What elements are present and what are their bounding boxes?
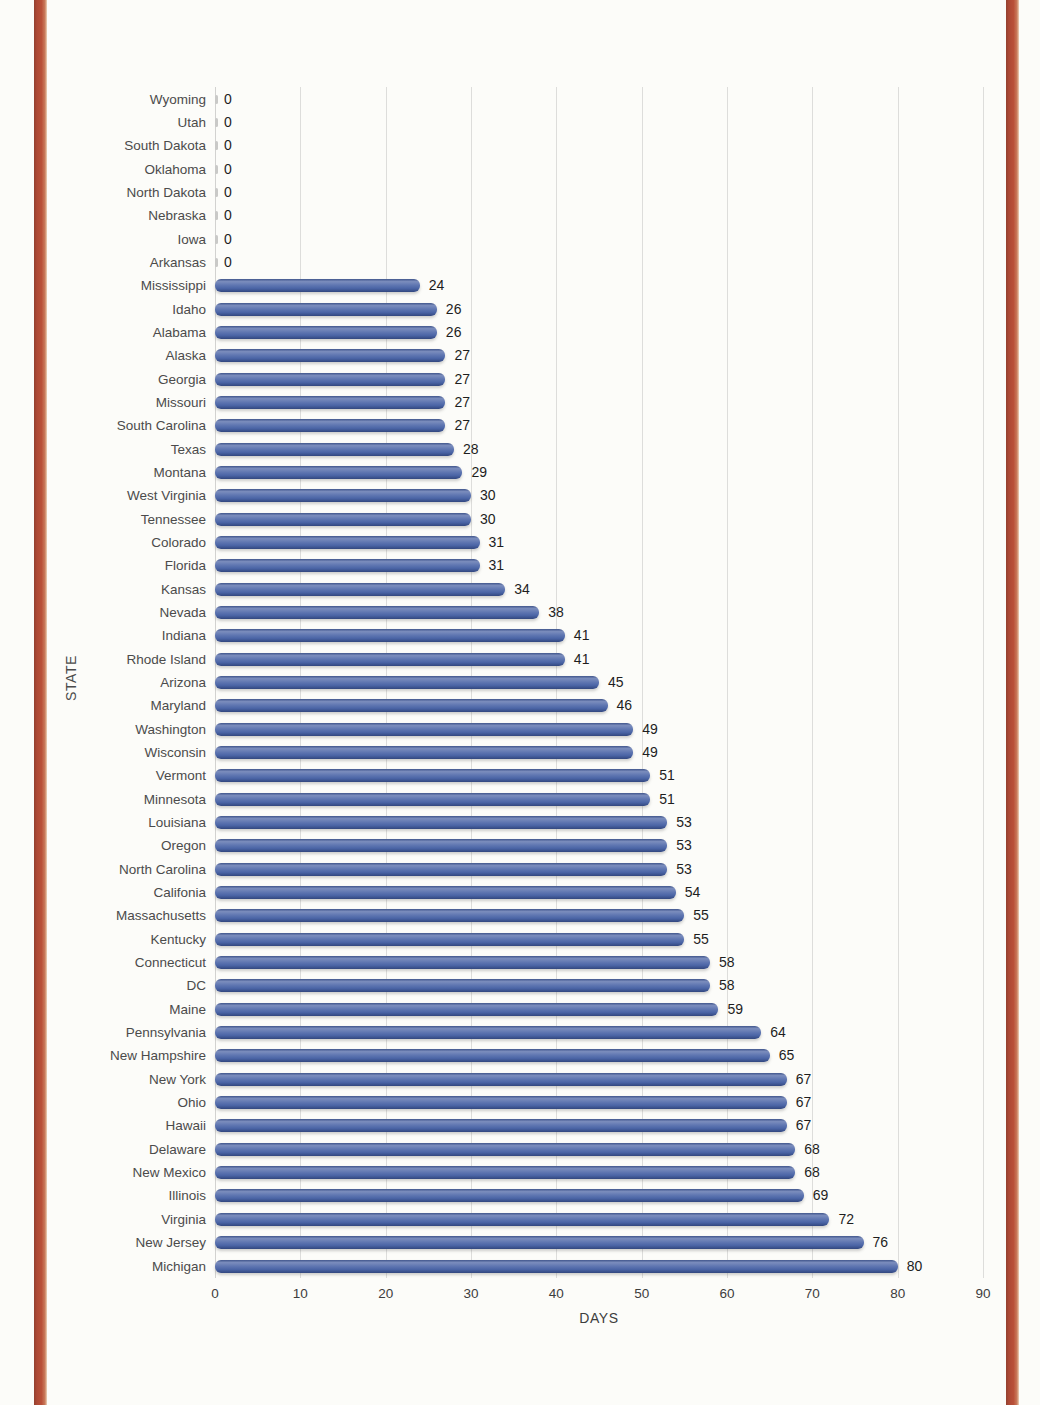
category-label: Connecticut <box>135 951 206 974</box>
value-label: 28 <box>463 438 479 461</box>
category-label: Oregon <box>161 834 206 857</box>
value-label: 34 <box>514 578 530 601</box>
bar <box>215 676 599 689</box>
bar <box>215 909 684 922</box>
bar-row: Indiana41 <box>0 624 1040 647</box>
value-label: 46 <box>617 694 633 717</box>
bar <box>215 326 437 339</box>
bar <box>215 466 462 479</box>
category-label: Minnesota <box>144 788 206 811</box>
category-label: Wyoming <box>150 88 206 111</box>
value-label: 27 <box>454 344 470 367</box>
bar-row: West Virginia30 <box>0 484 1040 507</box>
category-label: North Carolina <box>119 858 206 881</box>
value-label: 0 <box>224 251 232 274</box>
bar <box>215 1213 829 1226</box>
bar <box>215 746 633 759</box>
bar-row: Oregon53 <box>0 834 1040 857</box>
category-label: Rhode Island <box>126 648 206 671</box>
bar <box>215 653 565 666</box>
x-tick-label-70: 70 <box>782 1286 842 1301</box>
bar-row: Mississippi24 <box>0 274 1040 297</box>
bar <box>215 1049 770 1062</box>
zero-bar-sliver <box>215 211 218 220</box>
bar-row: Florida31 <box>0 554 1040 577</box>
bar <box>215 886 676 899</box>
value-label: 53 <box>676 834 692 857</box>
bar <box>215 443 454 456</box>
zero-bar-sliver <box>215 141 218 150</box>
bar <box>215 816 667 829</box>
category-label: North Dakota <box>126 181 206 204</box>
value-label: 49 <box>642 718 658 741</box>
bar <box>215 1119 787 1132</box>
bar <box>215 699 608 712</box>
zero-bar-sliver <box>215 118 218 127</box>
category-label: South Dakota <box>124 134 206 157</box>
zero-bar-sliver <box>215 258 218 267</box>
bar <box>215 513 471 526</box>
bar-row: Montana29 <box>0 461 1040 484</box>
bar-row: DC58 <box>0 974 1040 997</box>
category-label: Georgia <box>158 368 206 391</box>
category-label: Mississippi <box>141 274 206 297</box>
category-label: Montana <box>153 461 206 484</box>
category-label: Kansas <box>161 578 206 601</box>
bar-row: Oklahoma0 <box>0 158 1040 181</box>
bar-row: Georgia27 <box>0 368 1040 391</box>
bar-row: Iowa0 <box>0 228 1040 251</box>
value-label: 67 <box>796 1068 812 1091</box>
bar-row: Utah0 <box>0 111 1040 134</box>
bar <box>215 1236 864 1249</box>
value-label: 0 <box>224 134 232 157</box>
x-tick-label-60: 60 <box>697 1286 757 1301</box>
category-label: Michigan <box>152 1255 206 1278</box>
category-label: Kentucky <box>150 928 206 951</box>
bar-row: Wisconsin49 <box>0 741 1040 764</box>
bar-row: Idaho26 <box>0 298 1040 321</box>
value-label: 69 <box>813 1184 829 1207</box>
category-label: Vermont <box>156 764 206 787</box>
value-label: 41 <box>574 648 590 671</box>
x-tick-label-90: 90 <box>953 1286 1013 1301</box>
category-label: South Carolina <box>117 414 206 437</box>
bar-row: Alabama26 <box>0 321 1040 344</box>
bar <box>215 1189 804 1202</box>
category-label: Louisiana <box>148 811 206 834</box>
category-label: West Virginia <box>127 484 206 507</box>
value-label: 38 <box>548 601 564 624</box>
value-label: 30 <box>480 508 496 531</box>
category-label: Delaware <box>149 1138 206 1161</box>
bar-row: Washington49 <box>0 718 1040 741</box>
bar-row: Wyoming0 <box>0 88 1040 111</box>
value-label: 55 <box>693 904 709 927</box>
value-label: 76 <box>873 1231 889 1254</box>
value-label: 26 <box>446 298 462 321</box>
bar <box>215 1260 898 1273</box>
bar-row: Colorado31 <box>0 531 1040 554</box>
value-label: 0 <box>224 111 232 134</box>
bar-row: Ohio67 <box>0 1091 1040 1114</box>
bar-row: Delaware68 <box>0 1138 1040 1161</box>
value-label: 0 <box>224 204 232 227</box>
bar-row: Louisiana53 <box>0 811 1040 834</box>
value-label: 59 <box>727 998 743 1021</box>
category-label: New Mexico <box>132 1161 206 1184</box>
bar-row: Arkansas0 <box>0 251 1040 274</box>
bar <box>215 303 437 316</box>
bar <box>215 629 565 642</box>
category-label: Wisconsin <box>144 741 206 764</box>
bar-row: New York67 <box>0 1068 1040 1091</box>
bar-row: Virginia72 <box>0 1208 1040 1231</box>
bar-row: Minnesota51 <box>0 788 1040 811</box>
bar-row: Massachusetts55 <box>0 904 1040 927</box>
category-label: Nevada <box>159 601 206 624</box>
bar-row: North Dakota0 <box>0 181 1040 204</box>
value-label: 58 <box>719 951 735 974</box>
category-label: Arizona <box>160 671 206 694</box>
x-tick-label-80: 80 <box>868 1286 928 1301</box>
zero-bar-sliver <box>215 165 218 174</box>
bar-row: Nevada38 <box>0 601 1040 624</box>
category-label: Oklahoma <box>144 158 206 181</box>
category-label: Ohio <box>177 1091 206 1114</box>
